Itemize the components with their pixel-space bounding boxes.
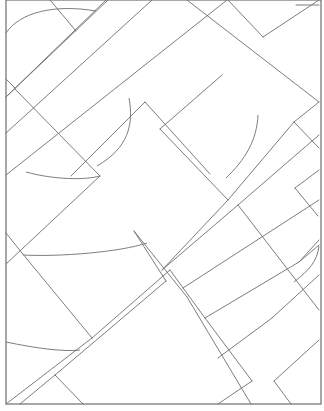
line-art-canvas — [0, 0, 324, 411]
geometric-line-drawing — [0, 0, 324, 411]
